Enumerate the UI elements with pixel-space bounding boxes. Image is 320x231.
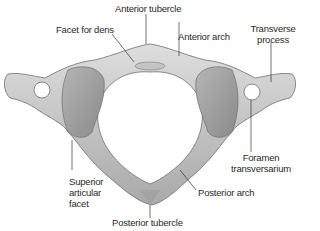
label-posterior-tubercle: Posterior tubercle	[112, 217, 183, 228]
label-superior-articular-facet: Superior articular facet	[69, 176, 103, 209]
label-anterior-tubercle: Anterior tubercle	[115, 3, 181, 14]
label-facet-for-dens: Facet for dens	[56, 24, 114, 35]
label-posterior-arch: Posterior arch	[198, 187, 254, 198]
label-transverse-process: Transverse process	[247, 23, 299, 45]
facet-for-dens	[135, 62, 165, 70]
right-foramen-transversarium	[244, 84, 260, 100]
label-foramen-transversarium: Foramen transversarium	[222, 152, 300, 174]
left-foramen-transversarium	[34, 82, 50, 98]
label-anterior-arch: Anterior arch	[178, 31, 230, 42]
